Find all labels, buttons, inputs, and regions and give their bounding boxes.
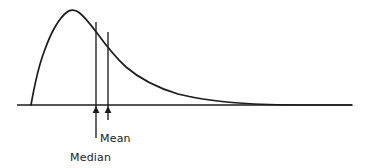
median-arrow-icon	[93, 106, 100, 113]
mean-marker-group: Mean	[100, 32, 131, 145]
density-curve	[31, 10, 352, 105]
mean-label: Mean	[100, 132, 131, 145]
figure-root: Median Mean	[0, 0, 371, 168]
median-label: Median	[70, 151, 111, 164]
distribution-chart: Median Mean	[0, 0, 371, 168]
mean-arrow-icon	[105, 106, 112, 113]
